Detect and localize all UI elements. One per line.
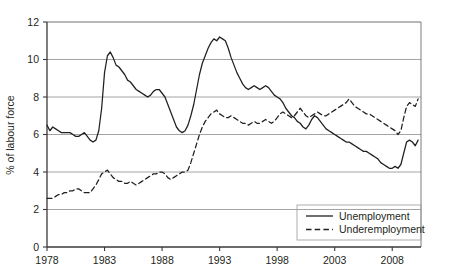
line-chart: 024681012 1978198319881993199820032008 %… (0, 0, 449, 276)
y-axis-title-text: % of labour force (4, 95, 16, 175)
gridlines (47, 22, 421, 210)
legend-label-underemployment: Underemployment (339, 223, 425, 235)
y-tick-label: 8 (33, 91, 39, 103)
y-tick-label: 2 (33, 203, 39, 215)
y-tick-label: 4 (33, 166, 39, 178)
series-line-underemployment (47, 99, 418, 198)
series-unemployment (47, 37, 418, 168)
y-tick-label: 10 (27, 53, 39, 65)
legend-label-unemployment: Unemployment (339, 210, 410, 222)
y-tick-label: 6 (33, 128, 39, 140)
legend: UnemploymentUnderemployment (297, 205, 425, 240)
x-tick-label: 1988 (150, 254, 174, 266)
y-axis-title: % of labour force (4, 95, 16, 175)
y-tick-label: 0 (33, 241, 39, 253)
series-underemployment (47, 99, 418, 198)
chart-container: 024681012 1978198319881993199820032008 %… (0, 0, 449, 276)
x-axis: 1978198319881993199820032008 (35, 247, 404, 266)
x-tick-label: 2008 (381, 254, 405, 266)
x-tick-label: 2003 (323, 254, 347, 266)
x-tick-label: 1983 (93, 254, 117, 266)
y-axis: 024681012 (27, 16, 47, 253)
series-line-unemployment (47, 37, 418, 168)
y-tick-label: 12 (27, 16, 39, 28)
x-tick-label: 1998 (265, 254, 289, 266)
x-tick-label: 1993 (208, 254, 232, 266)
x-tick-label: 1978 (35, 254, 59, 266)
